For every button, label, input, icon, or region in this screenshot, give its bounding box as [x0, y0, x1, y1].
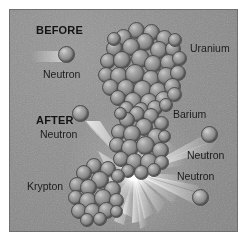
- free-neutron-before: [58, 46, 75, 63]
- neutron-label-before: Neutron: [43, 68, 80, 80]
- free-neutron-after-right: [201, 126, 218, 143]
- neutron-label-after-left: Neutron: [40, 128, 77, 140]
- barium-label: Barium: [173, 108, 206, 120]
- krypton-nucleus: [68, 158, 126, 220]
- free-neutron-after-bottom: [192, 189, 209, 206]
- before-section-heading: BEFORE: [36, 24, 83, 36]
- free-neutron-after-left: [72, 105, 89, 122]
- after-section-heading: AFTER: [36, 114, 74, 126]
- neutron-label-after-right: Neutron: [187, 149, 224, 161]
- uranium-label: Uranium: [190, 42, 230, 54]
- uranium-nucleus: [98, 22, 186, 114]
- krypton-label: Krypton: [27, 180, 63, 192]
- fission-diagram-figure: BEFORE Neutron: [9, 9, 238, 232]
- neutron-label-after-bottom: Neutron: [177, 170, 214, 182]
